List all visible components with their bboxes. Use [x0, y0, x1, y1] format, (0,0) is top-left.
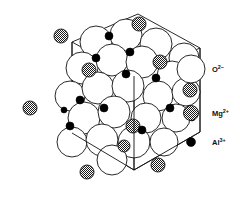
magnesium-ion — [151, 158, 165, 172]
magnesium-ion — [153, 55, 167, 69]
legend-symbol-aluminium-ion — [187, 138, 196, 147]
legend-label-base: Mg — [212, 109, 223, 118]
legend-label-superscript: 2+ — [223, 108, 229, 114]
aluminium-ion — [152, 74, 160, 82]
aluminium-ion — [166, 104, 174, 112]
magnesium-ion — [132, 17, 146, 31]
aluminium-ion — [61, 107, 67, 113]
aluminium-ion — [105, 32, 113, 40]
magnesium-ion — [82, 63, 96, 77]
figure-root: O2−Mg2+Al3+ — [0, 0, 240, 198]
aluminium-ion — [138, 126, 146, 134]
magnesium-ion — [23, 101, 37, 115]
legend-label-superscript: 2− — [218, 64, 224, 70]
crystal-structure-figure: O2−Mg2+Al3+ — [0, 0, 240, 198]
aluminium-ion — [76, 96, 84, 104]
legend-symbol-oxygen-ion — [177, 55, 205, 83]
legend-symbol-magnesium-ion — [184, 106, 199, 121]
legend-label-base: Al — [212, 138, 220, 147]
aluminium-ion — [100, 104, 108, 112]
aluminium-ion — [66, 122, 74, 130]
oxygen-ion — [150, 128, 178, 156]
legend-label-superscript: 3+ — [220, 137, 226, 143]
aluminium-ion — [126, 48, 134, 56]
aluminium-ion — [122, 70, 130, 78]
aluminium-ion — [92, 54, 100, 62]
magnesium-ion — [183, 83, 197, 97]
magnesium-ion — [54, 29, 68, 43]
magnesium-ion — [118, 140, 130, 152]
magnesium-ion — [80, 165, 94, 179]
oxygen-ion — [57, 127, 87, 157]
